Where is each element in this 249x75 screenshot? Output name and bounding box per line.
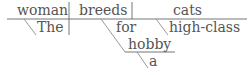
object-modifier-word: high-class xyxy=(169,19,240,35)
a-modifier-line xyxy=(137,52,148,68)
sentence-diagram: woman breeds cats The for hobby a high-c… xyxy=(0,0,249,75)
preposition-word: for xyxy=(116,19,137,35)
a-modifier-word: a xyxy=(149,53,157,69)
prep-object-word: hobby xyxy=(128,36,171,52)
the-modifier-word: The xyxy=(37,19,64,35)
object-word: cats xyxy=(173,2,202,18)
predicate-word: breeds xyxy=(79,2,127,18)
the-modifier-line xyxy=(24,19,36,35)
object-modifier-line xyxy=(156,19,168,35)
subject-word: woman xyxy=(17,2,68,18)
